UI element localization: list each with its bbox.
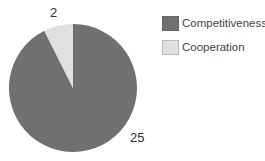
pie-chart xyxy=(0,0,150,161)
legend-label: Competitiveness xyxy=(182,17,265,29)
cooperation-value-label: 2 xyxy=(50,5,57,20)
legend-swatch-cooperation xyxy=(162,40,179,55)
competitiveness-value-label: 25 xyxy=(130,130,144,145)
legend-item-cooperation: Cooperation xyxy=(162,36,265,58)
legend-swatch-competitiveness xyxy=(162,16,179,31)
chart-legend: Competitiveness Cooperation xyxy=(162,12,265,60)
legend-label: Cooperation xyxy=(182,41,245,53)
legend-item-competitiveness: Competitiveness xyxy=(162,12,265,34)
